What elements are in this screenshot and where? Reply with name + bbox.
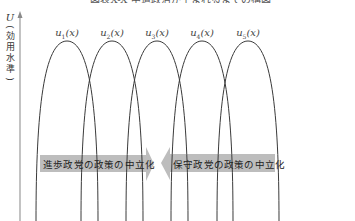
utility-curves bbox=[36, 41, 279, 221]
curve-arg: (x) bbox=[110, 27, 123, 38]
curve-label-u1: u1(x) bbox=[55, 27, 79, 40]
axis-arrowhead-icon bbox=[18, 11, 23, 18]
y-axis bbox=[18, 11, 23, 221]
curve-arg: (x) bbox=[246, 27, 259, 38]
diagram-canvas bbox=[0, 0, 355, 221]
utility-curves-diagram: 図表X-X 中道政治が生まれるまでの構図 U ( 効 用 水 準 ) bbox=[0, 0, 355, 221]
paren-close: ) bbox=[6, 73, 14, 85]
curve-u5 bbox=[217, 41, 279, 221]
y-axis-char-3: 水 bbox=[4, 53, 16, 64]
arrow-label-conservative: 保守政党の政策の中立化 bbox=[173, 157, 285, 171]
curve-label-u3: u3(x) bbox=[145, 27, 169, 40]
curve-label-u2: u2(x) bbox=[100, 27, 124, 40]
curve-u2 bbox=[81, 41, 143, 221]
curve-label-u4: u4(x) bbox=[190, 27, 214, 40]
curve-arg: (x) bbox=[65, 27, 78, 38]
curve-u3 bbox=[126, 41, 188, 221]
arrow-label-progressive: 進歩政党の政策の中立化 bbox=[43, 157, 155, 171]
curve-arg: (x) bbox=[155, 27, 168, 38]
curve-label-u5: u5(x) bbox=[236, 27, 260, 40]
curve-u4 bbox=[171, 41, 233, 221]
y-axis-char-2: 用 bbox=[4, 42, 16, 53]
curve-arg: (x) bbox=[200, 27, 213, 38]
curve-u1 bbox=[36, 41, 98, 221]
paren-open: ( bbox=[6, 21, 14, 33]
y-axis-label: U ( 効 用 水 準 ) bbox=[4, 12, 16, 83]
